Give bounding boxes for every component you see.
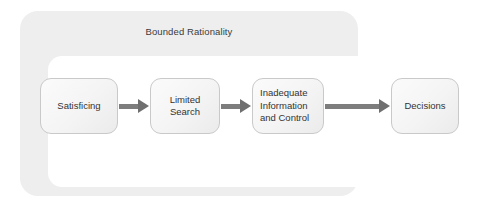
node-decisions-label: Decisions [392, 100, 458, 113]
arrow-right-icon-inadequate-info-to-decisions [325, 99, 390, 113]
arrow-head [240, 99, 251, 113]
node-decisions[interactable]: Decisions [391, 78, 459, 134]
node-limited-search[interactable]: LimitedSearch [150, 78, 220, 134]
arrow-shaft [325, 104, 379, 109]
arrow-right-icon-limited-search-to-inadequate-info [221, 99, 251, 113]
node-limited-search-label: LimitedSearch [151, 94, 219, 119]
node-inadequate-information-and-control-label: InadequateInformationand Control [253, 87, 323, 125]
node-satisficing[interactable]: Satisficing [40, 78, 118, 134]
arrow-right-icon-satisficing-to-limited-search [119, 99, 149, 113]
bounded-rationality-title: Bounded Rationality [20, 26, 358, 37]
node-satisficing-label: Satisficing [41, 100, 117, 113]
diagram-canvas: Bounded Rationality Satisficing LimitedS… [0, 0, 481, 220]
arrow-shaft [221, 104, 240, 109]
arrow-head [138, 99, 149, 113]
arrow-head [379, 99, 390, 113]
arrow-shaft [119, 104, 138, 109]
node-inadequate-information-and-control[interactable]: InadequateInformationand Control [252, 78, 324, 134]
